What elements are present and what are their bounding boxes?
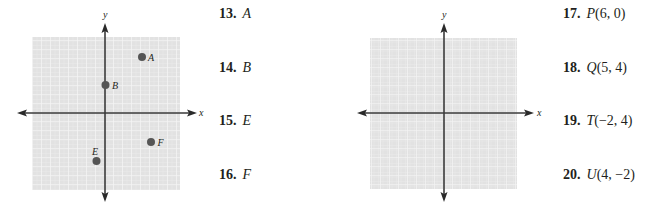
problem-coordinates: (4, −2) <box>597 167 635 182</box>
problem-coordinates: (6, 0) <box>595 6 625 21</box>
problem-19: 19.T(−2, 4) <box>563 114 633 128</box>
problem-number: 16. <box>219 167 237 182</box>
point-label: E <box>91 146 98 157</box>
problem-number: 15. <box>219 113 237 128</box>
problem-number: 20. <box>563 167 581 182</box>
problem-point-label: P <box>587 6 596 21</box>
problem-number: 13. <box>219 6 237 21</box>
problem-number: 17. <box>563 6 581 21</box>
point-label: B <box>112 80 118 91</box>
problem-point-label: F <box>243 167 252 182</box>
y-axis-label: y <box>102 9 108 20</box>
problem-point-label: U <box>587 167 597 182</box>
problem-point-label: B <box>243 60 252 75</box>
problem-13: 13.A <box>219 7 251 21</box>
problem-coordinates: (−2, 4) <box>594 113 632 128</box>
problem-coordinates: (5, 4) <box>597 60 627 75</box>
problem-number: 19. <box>563 113 581 128</box>
problem-number: 14. <box>219 60 237 75</box>
problem-17: 17.P(6, 0) <box>563 7 625 21</box>
problem-16: 16.F <box>219 168 251 182</box>
x-axis-label: x <box>198 107 204 118</box>
problem-14: 14.B <box>219 61 251 75</box>
problem-point-label: E <box>243 113 252 128</box>
left-graph-svg: x y A B E F <box>0 0 210 203</box>
problem-point-label: Q <box>587 60 597 75</box>
left-coordinate-graph: x y A B E F <box>0 0 210 203</box>
right-graph-svg: x y <box>338 0 548 203</box>
right-coordinate-graph: x y <box>338 0 548 203</box>
point-label: A <box>147 52 155 63</box>
problem-20: 20.U(4, −2) <box>563 168 635 182</box>
y-axis-label: y <box>441 9 447 20</box>
problem-18: 18.Q(5, 4) <box>563 61 627 75</box>
problem-number: 18. <box>563 60 581 75</box>
problem-15: 15.E <box>219 114 251 128</box>
x-axis-label: x <box>536 107 542 118</box>
point-label: F <box>157 137 165 148</box>
problem-point-label: A <box>243 6 252 21</box>
